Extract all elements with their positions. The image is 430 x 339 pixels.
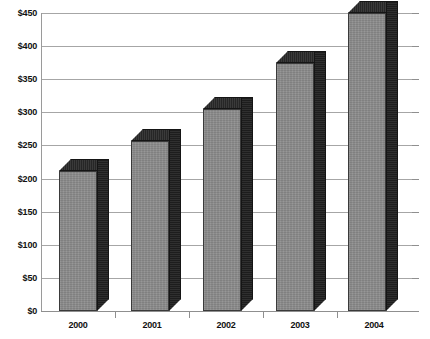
right-axis-tick: [412, 145, 419, 146]
bar-front-face-2003: [276, 63, 314, 311]
x-axis-label-2002: 2002: [216, 321, 235, 330]
x-axis-line: [41, 311, 413, 312]
bar-chart: $450 $400 $350 $300 $250 $200 $150 $100 …: [0, 0, 430, 339]
x-axis-label-2004: 2004: [364, 321, 383, 330]
right-axis-tick: [412, 46, 419, 47]
bar-2004[interactable]: [348, 1, 398, 311]
bar-side-face-2001: [169, 129, 181, 311]
y-axis-tick-label: $350: [3, 75, 37, 84]
bar-2003[interactable]: [276, 51, 326, 311]
bar-2000[interactable]: [59, 159, 109, 311]
bar-front-face-2002: [203, 109, 241, 311]
bar-front-face-2001: [131, 141, 169, 311]
y-axis-tick-label: $250: [3, 141, 37, 150]
x-axis-separator-tick: [189, 311, 190, 318]
right-axis-tick: [412, 278, 419, 279]
bar-2001[interactable]: [131, 129, 181, 311]
bar-front-face-2004: [348, 13, 386, 311]
x-axis-label-2000: 2000: [68, 321, 87, 330]
right-axis-tick: [412, 112, 419, 113]
y-axis-tick-label: $50: [3, 273, 37, 282]
y-axis-tick-label: $0: [3, 307, 37, 316]
x-axis-separator-tick: [115, 311, 116, 318]
y-axis-labels: $450 $400 $350 $300 $250 $200 $150 $100 …: [0, 13, 37, 311]
bar-side-face-2003: [314, 51, 326, 311]
bar-front-face-2000: [59, 171, 97, 311]
x-axis-separator-tick: [263, 311, 264, 318]
y-axis-tick-label: $400: [3, 42, 37, 51]
x-axis-label-2003: 2003: [290, 321, 309, 330]
bar-side-face-2000: [97, 159, 109, 311]
right-axis-tick: [412, 311, 419, 312]
y-axis-tick-label: $200: [3, 174, 37, 183]
y-axis-tick-label: $100: [3, 240, 37, 249]
right-axis-tick: [412, 13, 419, 14]
bar-side-face-2002: [241, 97, 253, 311]
right-axis-tick: [412, 179, 419, 180]
y-axis-tick-label: $150: [3, 207, 37, 216]
right-axis-tick: [412, 245, 419, 246]
y-axis-tick-label: $300: [3, 108, 37, 117]
bars-layer: [41, 13, 412, 311]
x-axis-label-2001: 2001: [142, 321, 161, 330]
right-axis-tick: [412, 79, 419, 80]
x-axis-separator-tick: [337, 311, 338, 318]
right-axis-tick: [412, 212, 419, 213]
bar-side-face-2004: [386, 1, 398, 311]
bar-2002[interactable]: [203, 97, 253, 311]
y-axis-tick-label: $450: [3, 9, 37, 18]
